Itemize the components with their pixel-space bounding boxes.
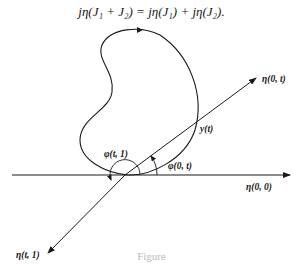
figure-caption: Figure [0,250,303,262]
label-phi-0-t: φ(0, t) [168,161,192,172]
label-y-t: y(t) [199,124,213,135]
figure-diagram: η(0, t) y(t) φ(0, t) φ(t, 1) η(0, 0) η(t… [0,0,303,264]
closed-curve [80,29,198,175]
label-eta-0-0: η(0, 0) [246,182,272,193]
label-phi-t-1: φ(t, 1) [104,149,128,160]
curve-direction-arrow-icon [137,27,143,33]
diagonal-ray-down [48,175,125,253]
label-eta-0-t: η(0, t) [262,74,286,85]
angle-arc-phi-0-t [151,156,157,175]
angle-arc-phi-t-1 [110,160,140,180]
